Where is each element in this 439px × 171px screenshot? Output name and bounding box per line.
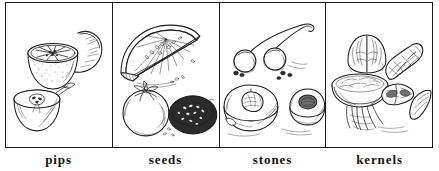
panel-label-stones: stones: [253, 153, 292, 166]
label-cell-kernels: kernels: [326, 149, 433, 170]
kernels-illustration: [326, 3, 432, 147]
panel-label-seeds: seeds: [149, 153, 182, 166]
label-cell-pips: pips: [5, 149, 112, 170]
panel-pips: [6, 3, 113, 147]
panel-label-kernels: kernels: [356, 153, 403, 166]
label-cell-stones: stones: [219, 149, 326, 170]
panel-label-row: pips seeds stones kernels: [5, 149, 433, 170]
fruit-seed-type-figure: pips seeds stones kernels: [0, 0, 439, 171]
panel-label-pips: pips: [45, 153, 72, 166]
stones-illustration: [220, 3, 326, 147]
seeds-illustration: [113, 3, 219, 147]
pips-illustration: [6, 3, 112, 147]
panel-seeds: [113, 3, 220, 147]
panel-grid: [5, 2, 433, 148]
panel-kernels: [326, 3, 432, 147]
panel-stones: [220, 3, 327, 147]
label-cell-seeds: seeds: [112, 149, 219, 170]
